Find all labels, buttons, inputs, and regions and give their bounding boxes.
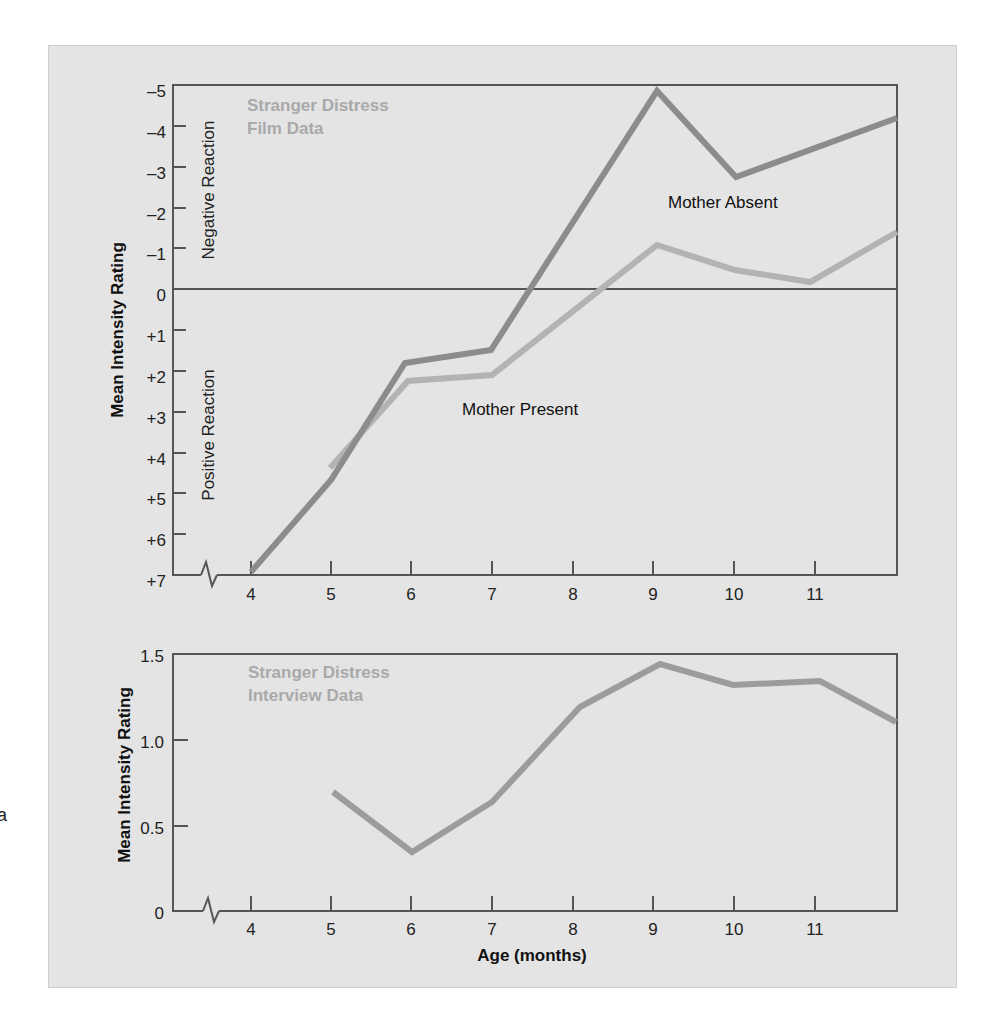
bottom-chart-title-line2: Interview Data — [248, 686, 364, 705]
top-x-tick-labels: 4 5 6 7 8 9 10 11 — [246, 585, 824, 604]
svg-text:9: 9 — [648, 920, 657, 939]
svg-text:–4: –4 — [147, 123, 166, 142]
top-chart-title-line1: Stranger Distress — [247, 96, 389, 115]
svg-text:10: 10 — [725, 585, 744, 604]
svg-text:5: 5 — [326, 585, 335, 604]
svg-text:11: 11 — [806, 920, 824, 939]
svg-text:–3: –3 — [147, 164, 166, 183]
svg-text:7: 7 — [487, 585, 496, 604]
mother-present-annotation: Mother Present — [462, 400, 578, 419]
svg-text:4: 4 — [246, 920, 255, 939]
top-y-tick-labels: –5 –4 –3 –2 –1 0 +1 +2 +3 +4 +5 +6 +7 — [147, 82, 166, 591]
bottom-x-axis-label: Age (months) — [477, 946, 587, 965]
svg-text:0: 0 — [157, 286, 166, 305]
svg-text:7: 7 — [487, 920, 496, 939]
svg-text:11: 11 — [806, 585, 824, 604]
svg-text:6: 6 — [406, 920, 415, 939]
bottom-x-ticks — [251, 896, 815, 911]
top-x-ticks — [251, 561, 815, 575]
svg-text:+1: +1 — [147, 327, 166, 346]
svg-text:+5: +5 — [147, 490, 166, 509]
bottom-y-tick-labels: 1.5 1.0 0.5 0 — [140, 647, 164, 923]
svg-text:9: 9 — [648, 585, 657, 604]
svg-text:+2: +2 — [147, 368, 166, 387]
interview-line — [333, 664, 896, 852]
svg-text:+7: +7 — [147, 572, 166, 591]
top-y-ticks — [173, 126, 186, 534]
bottom-y-axis-label: Mean Intensity Rating — [115, 687, 134, 863]
svg-text:0.5: 0.5 — [140, 819, 164, 838]
svg-text:+3: +3 — [147, 409, 166, 428]
bottom-x-tick-labels: 4 5 6 7 8 9 10 11 — [246, 920, 824, 939]
svg-text:10: 10 — [725, 920, 744, 939]
bottom-chart-title-line1: Stranger Distress — [248, 663, 390, 682]
svg-text:–1: –1 — [147, 245, 166, 264]
figure-svg: –5 –4 –3 –2 –1 0 +1 +2 +3 +4 +5 +6 +7 4 … — [0, 0, 998, 1023]
svg-text:5: 5 — [326, 920, 335, 939]
svg-text:6: 6 — [406, 585, 415, 604]
interview-data-chart: 1.5 1.0 0.5 0 4 5 6 7 8 9 10 11 Age (mon… — [115, 647, 897, 965]
svg-text:+4: +4 — [147, 450, 166, 469]
svg-text:8: 8 — [568, 920, 577, 939]
negative-reaction-label: Negative Reaction — [199, 121, 218, 260]
svg-text:1.0: 1.0 — [140, 733, 164, 752]
mother-absent-annotation: Mother Absent — [668, 193, 778, 212]
svg-text:0: 0 — [155, 904, 164, 923]
svg-text:+6: +6 — [147, 531, 166, 550]
mother-present-line — [330, 232, 897, 468]
top-chart-title-line2: Film Data — [247, 119, 324, 138]
svg-text:–5: –5 — [147, 82, 166, 101]
svg-text:8: 8 — [568, 585, 577, 604]
mother-absent-line — [251, 91, 897, 572]
top-y-axis-label: Mean Intensity Rating — [108, 242, 127, 418]
svg-text:1.5: 1.5 — [140, 647, 164, 666]
axis-break-icon — [201, 562, 217, 586]
svg-text:4: 4 — [246, 585, 255, 604]
positive-reaction-label: Positive Reaction — [199, 369, 218, 500]
film-data-chart: –5 –4 –3 –2 –1 0 +1 +2 +3 +4 +5 +6 +7 4 … — [108, 82, 897, 604]
bottom-y-ticks — [173, 740, 188, 826]
axis-break-icon — [203, 898, 219, 922]
svg-text:–2: –2 — [147, 205, 166, 224]
